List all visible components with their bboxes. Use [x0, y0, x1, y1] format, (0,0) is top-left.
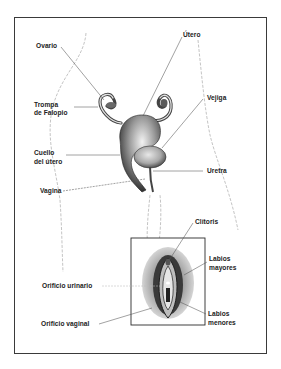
label-utero: Útero [183, 31, 200, 39]
label-trompa-line2: de Falopio [34, 109, 67, 117]
anatomy-illustration [0, 0, 281, 369]
label-labios-mayores-line1: Labios [209, 255, 231, 263]
vulva-illustration [142, 247, 194, 319]
label-labios-menores-line1: Labios [208, 310, 230, 318]
label-clitoris: Clítoris [195, 218, 218, 226]
label-vagina: Vagina [40, 187, 62, 195]
label-cuello-line1: Cuello [34, 149, 54, 157]
label-vejiga: Vejiga [207, 94, 226, 102]
bladder [134, 146, 166, 168]
label-uretra: Uretra [207, 167, 227, 175]
label-orificio-urinario: Orificio urinario [42, 282, 92, 290]
label-trompa-line1: Trompa [34, 101, 58, 109]
label-labios-menores-line2: menores [208, 319, 236, 327]
label-labios-mayores-line2: mayores [209, 264, 236, 272]
urethra-shape [150, 167, 153, 192]
label-cuello-line2: del útero [34, 158, 62, 166]
label-orificio-vaginal: Orificio vaginal [41, 320, 89, 328]
label-ovario: Ovario [36, 42, 57, 50]
fallopian-tube-right [152, 95, 171, 120]
